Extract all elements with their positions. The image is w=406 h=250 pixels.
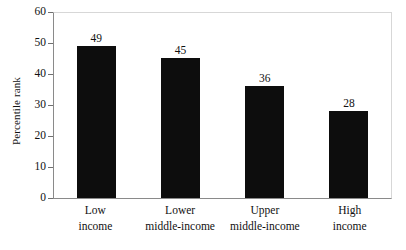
x-axis-labels: Low income Lower middle-income Upper mid…: [53, 203, 392, 234]
y-tick-label-40: 40: [24, 68, 46, 79]
bar-cell-high-income: 28: [307, 13, 391, 198]
bar-cell-low-income: 49: [54, 13, 138, 198]
bar-high-income[interactable]: [329, 111, 368, 198]
bar-cell-upper-middle-income: 36: [223, 13, 307, 198]
bars-layer: 49 45 36 28: [54, 13, 391, 198]
x-label-low-income: Low income: [53, 203, 138, 234]
x-label-upper-middle-income: Upper middle-income: [223, 203, 308, 234]
bar-low-income[interactable]: [77, 46, 116, 198]
x-label-line: middle-income: [138, 219, 223, 235]
bar-chart-figure: Percentile rank 60 50 40 30 20 10 0 49 4…: [0, 0, 406, 250]
y-axis-ticks: 60 50 40 30 20 10 0: [22, 0, 46, 250]
y-tick-label-30: 30: [24, 99, 46, 110]
bar-cell-lower-middle-income: 45: [138, 13, 222, 198]
bar-value-label: 36: [223, 72, 307, 84]
bar-value-label: 28: [307, 97, 391, 109]
x-label-line: Lower: [138, 203, 223, 219]
x-label-line: income: [53, 219, 138, 235]
x-label-line: Upper: [223, 203, 308, 219]
x-label-high-income: High income: [307, 203, 392, 234]
y-tick-label-10: 10: [24, 161, 46, 172]
x-label-lower-middle-income: Lower middle-income: [138, 203, 223, 234]
bar-value-label: 49: [54, 32, 138, 44]
y-tick-label-50: 50: [24, 37, 46, 48]
x-label-line: High: [307, 203, 392, 219]
y-tick-label-60: 60: [24, 6, 46, 17]
y-tick-label-20: 20: [24, 130, 46, 141]
bar-upper-middle-income[interactable]: [245, 86, 284, 198]
bar-value-label: 45: [138, 44, 222, 56]
x-label-line: middle-income: [223, 219, 308, 235]
bar-lower-middle-income[interactable]: [161, 58, 200, 198]
x-label-line: Low: [53, 203, 138, 219]
x-label-line: income: [307, 219, 392, 235]
plot-area: 49 45 36 28: [53, 12, 392, 199]
y-tick-label-0: 0: [24, 192, 46, 203]
